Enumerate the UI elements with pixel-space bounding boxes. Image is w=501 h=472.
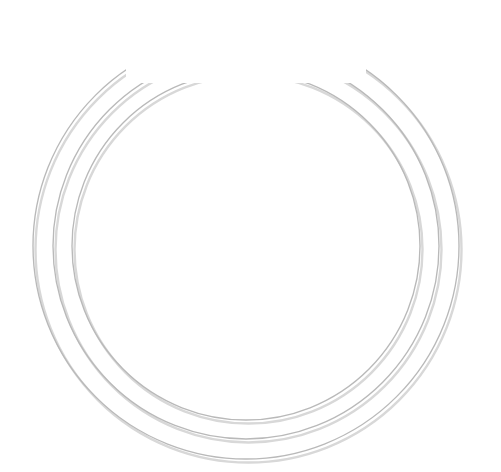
brand-wheel-diagram (0, 0, 501, 472)
outer-ring-label-backdrop (126, 62, 366, 83)
outer-ring-moment-situation (72, 62, 423, 424)
brand-wheel-svg (0, 0, 501, 472)
outer-ring-label-backdrop (126, 41, 366, 62)
outer-rings-group (33, 21, 462, 463)
outer-ring-shadow (56, 57, 442, 443)
outer-ring-shadow (75, 76, 423, 424)
outer-ring-shadow (36, 37, 462, 463)
outer-ring-circle (33, 33, 459, 459)
outer-ring-changing-world (33, 21, 462, 463)
outer-ring-consumers (53, 41, 442, 443)
outer-ring-label-backdrop (126, 21, 366, 42)
